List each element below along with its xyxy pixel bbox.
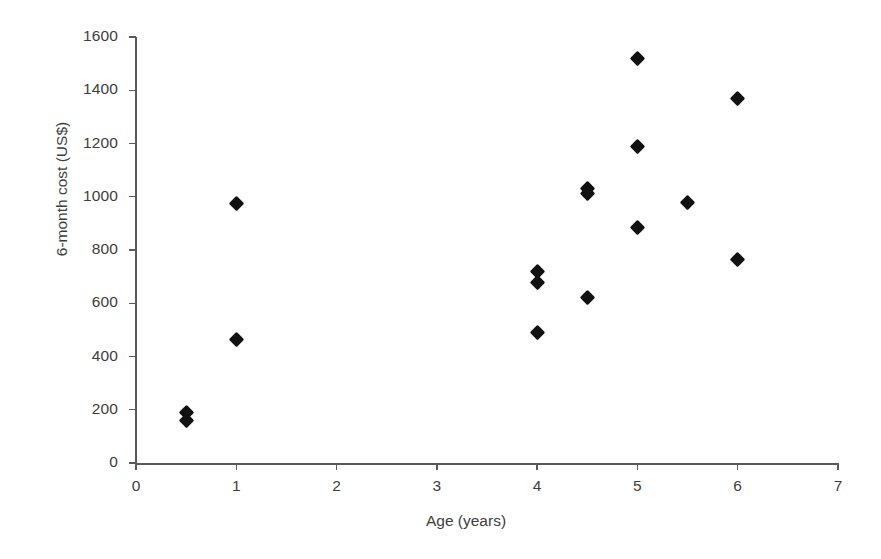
data-point [730, 91, 746, 107]
y-tick-label: 0 [0, 453, 118, 471]
plot-area [136, 37, 838, 463]
data-point [229, 332, 245, 348]
x-tick-mark [236, 463, 237, 470]
y-tick-mark [129, 196, 136, 197]
x-tick-label: 1 [206, 477, 266, 495]
x-tick-mark [837, 463, 838, 470]
y-tick-label: 200 [0, 400, 118, 418]
y-tick-mark [129, 356, 136, 357]
x-tick-mark [135, 463, 136, 470]
y-tick-mark [129, 143, 136, 144]
data-point [229, 196, 245, 212]
x-tick-label: 3 [407, 477, 467, 495]
x-tick-mark [637, 463, 638, 470]
y-tick-label: 400 [0, 347, 118, 365]
data-point [178, 413, 194, 429]
y-tick-mark [129, 409, 136, 410]
data-point [630, 138, 646, 154]
x-tick-mark [737, 463, 738, 470]
x-tick-label: 0 [106, 477, 166, 495]
x-tick-label: 6 [708, 477, 768, 495]
x-axis-title: Age (years) [336, 512, 596, 530]
x-tick-label: 5 [607, 477, 667, 495]
x-tick-label: 4 [507, 477, 567, 495]
y-tick-mark [129, 303, 136, 304]
x-tick-label: 7 [808, 477, 868, 495]
data-point [630, 51, 646, 67]
data-point [580, 290, 596, 306]
y-tick-mark [129, 249, 136, 250]
data-point [730, 252, 746, 268]
y-tick-label: 1600 [0, 27, 118, 45]
x-tick-mark [536, 463, 537, 470]
y-tick-mark [129, 90, 136, 91]
x-axis-line [136, 463, 839, 465]
y-axis-title: 6-month cost (US$) [53, 49, 71, 329]
data-point [680, 195, 696, 211]
data-point [630, 220, 646, 236]
data-point [529, 324, 545, 340]
scatter-chart-figure: 02004006008001000120014001600 01234567 6… [0, 0, 881, 559]
x-tick-mark [336, 463, 337, 470]
data-point [529, 275, 545, 291]
y-tick-mark [129, 36, 136, 37]
x-tick-label: 2 [307, 477, 367, 495]
x-tick-mark [436, 463, 437, 470]
